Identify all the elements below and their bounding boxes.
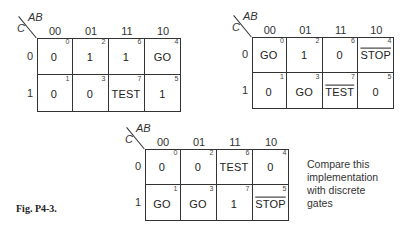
column-header: 11 <box>323 24 359 36</box>
minterm-index: 4 <box>175 38 179 45</box>
cell-value: 1 <box>73 50 108 62</box>
kmap-grid: GO01206STOP401GO3TEST705 <box>252 37 394 109</box>
kmap-cell: TEST6 <box>217 149 253 185</box>
minterm-index: 7 <box>138 75 142 82</box>
minterm-index: 1 <box>280 73 284 80</box>
row-variable-label: C <box>17 22 25 34</box>
kmap-cell: 03 <box>73 75 109 112</box>
cell-value: GO <box>145 50 181 62</box>
column-header: 10 <box>253 136 289 148</box>
cell-value: 1 <box>109 50 144 62</box>
cell-value: TEST <box>323 85 358 97</box>
cell-value: 0 <box>73 88 108 100</box>
cell-value: GO <box>145 197 180 209</box>
minterm-index: 0 <box>280 37 284 44</box>
kmap-cell: 01 <box>252 73 288 109</box>
cell-value: 0 <box>181 161 216 173</box>
minterm-index: 0 <box>174 149 178 156</box>
minterm-index: 1 <box>66 75 70 82</box>
minterm-index: 0 <box>66 38 70 45</box>
minterm-index: 7 <box>246 185 250 192</box>
row-header: 0 <box>135 160 141 172</box>
kmap-cell: TEST7 <box>323 73 359 109</box>
minterm-index: 5 <box>175 75 179 82</box>
cell-value: 0 <box>358 85 394 97</box>
kmap-grid: 001216GO40103TEST715 <box>37 38 181 112</box>
column-header: 11 <box>217 136 253 148</box>
kmap-cell: 15 <box>145 75 181 112</box>
kmap-cell: 12 <box>73 38 109 75</box>
minterm-index: 5 <box>283 185 287 192</box>
column-header: 10 <box>359 24 395 36</box>
minterm-index: 6 <box>138 38 142 45</box>
minterm-index: 4 <box>388 37 392 44</box>
kmap-cell: GO4 <box>145 38 181 75</box>
kmap-cell: 16 <box>109 38 145 75</box>
column-header: 11 <box>109 25 145 37</box>
cell-value: STOP <box>253 197 289 209</box>
row-header: 1 <box>27 87 33 99</box>
column-variable-label: AB <box>136 122 151 134</box>
column-header: 01 <box>288 24 324 36</box>
kmap-cell: STOP4 <box>358 37 394 73</box>
row-header: 1 <box>135 196 141 208</box>
note-line: with discrete <box>307 184 387 197</box>
column-header: 01 <box>181 136 217 148</box>
cell-value: GO <box>252 49 287 61</box>
minterm-index: 3 <box>102 75 106 82</box>
kmap-cell: TEST7 <box>109 75 145 112</box>
kmap-cell: 17 <box>217 185 253 221</box>
cell-value: 0 <box>252 85 287 97</box>
kmap-cell: 12 <box>287 37 323 73</box>
kmap-cell: 00 <box>37 38 73 75</box>
cell-value: 1 <box>287 49 322 61</box>
cell-value: 0 <box>37 88 72 100</box>
cell-value: 1 <box>145 88 181 100</box>
minterm-index: 6 <box>351 37 355 44</box>
column-variable-label: AB <box>243 10 258 22</box>
kmap-cell: 04 <box>253 149 289 185</box>
column-header: 10 <box>145 25 181 37</box>
minterm-index: 2 <box>316 37 320 44</box>
note-line: gates <box>307 197 387 210</box>
column-header: 01 <box>73 25 109 37</box>
row-header: 1 <box>242 84 248 96</box>
minterm-index: 6 <box>246 149 250 156</box>
minterm-index: 7 <box>351 73 355 80</box>
cell-value: TEST <box>109 88 144 100</box>
minterm-index: 3 <box>210 185 214 192</box>
kmap-cell: STOP5 <box>253 185 289 221</box>
row-variable-label: C <box>232 21 240 33</box>
kmap-cell: GO3 <box>181 185 217 221</box>
kmap-cell: 00 <box>145 149 181 185</box>
row-header: 0 <box>242 48 248 60</box>
cell-value: 0 <box>323 49 358 61</box>
kmap-cell: 05 <box>358 73 394 109</box>
minterm-index: 2 <box>210 149 214 156</box>
cell-value: STOP <box>358 49 394 61</box>
cell-value: GO <box>287 85 322 97</box>
cell-value: 0 <box>145 161 180 173</box>
note-line: Compare this <box>307 158 387 171</box>
kmap-cell: 02 <box>181 149 217 185</box>
kmap-cell: 06 <box>323 37 359 73</box>
comparison-note: Compare this implementation with discret… <box>307 158 387 210</box>
kmap-cell: 01 <box>37 75 73 112</box>
kmap-grid: 0002TEST604GO1GO317STOP5 <box>145 149 289 221</box>
cell-value: 1 <box>217 197 252 209</box>
column-header: 00 <box>37 25 73 37</box>
row-variable-label: C <box>125 133 133 145</box>
minterm-index: 4 <box>283 149 287 156</box>
cell-value: 0 <box>253 161 289 173</box>
kmap-cell: GO0 <box>252 37 288 73</box>
cell-value: TEST <box>217 161 252 173</box>
cell-value: GO <box>181 197 216 209</box>
note-line: implementation <box>307 171 387 184</box>
minterm-index: 3 <box>316 73 320 80</box>
column-variable-label: AB <box>28 11 43 23</box>
kmap-cell: GO1 <box>145 185 181 221</box>
kmap-cell: GO3 <box>287 73 323 109</box>
column-header: 00 <box>252 24 288 36</box>
minterm-index: 2 <box>102 38 106 45</box>
figure-caption: Fig. P4-3. <box>16 203 57 214</box>
